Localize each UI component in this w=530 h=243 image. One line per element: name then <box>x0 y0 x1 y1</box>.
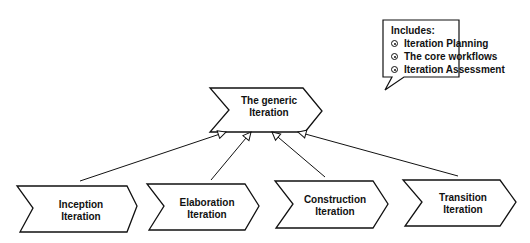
callout-title: Includes: <box>391 24 505 37</box>
construction-line1: Construction <box>292 194 378 206</box>
arrow-transition <box>298 132 458 176</box>
radio-bullet-icon <box>391 53 398 60</box>
arrow-construction <box>272 132 325 177</box>
inception-label: Inception Iteration <box>36 199 126 223</box>
generic-iteration-label: The generic Iteration <box>228 95 310 119</box>
callout-item-label: The core workflows <box>404 50 497 63</box>
arrow-elaboration <box>211 132 251 180</box>
radio-bullet-icon <box>391 40 398 47</box>
construction-label: Construction Iteration <box>292 194 378 218</box>
inception-line2: Iteration <box>36 211 126 223</box>
generic-line2: Iteration <box>228 107 310 119</box>
elaboration-line1: Elaboration <box>164 197 250 209</box>
callout-item: Iteration Assessment <box>391 63 505 76</box>
generic-line1: The generic <box>228 95 310 107</box>
arrow-inception <box>80 132 226 181</box>
elaboration-label: Elaboration Iteration <box>164 197 250 221</box>
radio-bullet-icon <box>391 66 398 73</box>
callout-content: Includes: Iteration Planning The core wo… <box>391 24 505 76</box>
callout-item-label: Iteration Assessment <box>404 63 505 76</box>
callout-item: Iteration Planning <box>391 37 505 50</box>
callout-item-label: Iteration Planning <box>404 37 488 50</box>
transition-label: Transition Iteration <box>420 192 506 216</box>
transition-line1: Transition <box>420 192 506 204</box>
construction-line2: Iteration <box>292 206 378 218</box>
inception-line1: Inception <box>36 199 126 211</box>
transition-line2: Iteration <box>420 204 506 216</box>
elaboration-line2: Iteration <box>164 209 250 221</box>
callout-item: The core workflows <box>391 50 505 63</box>
